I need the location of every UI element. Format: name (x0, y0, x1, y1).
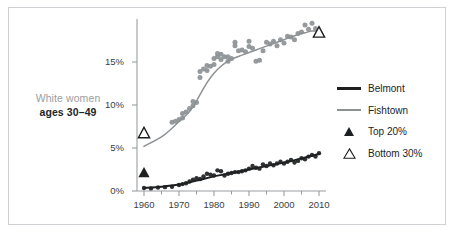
data-point (313, 154, 317, 158)
marker-triangle-filled (138, 167, 149, 177)
data-point (229, 56, 234, 61)
legend-key-line-icon (336, 87, 362, 90)
chart-figure: White women ages 30–49 0%5%10%15% 196019… (0, 0, 454, 233)
data-point (292, 37, 297, 42)
data-point (317, 151, 321, 155)
data-point (212, 62, 217, 67)
series-fishtown-scatter (170, 21, 319, 125)
x-tick-label: 1960 (127, 199, 161, 210)
data-point (194, 100, 199, 105)
data-point (247, 166, 251, 170)
data-point (198, 177, 202, 181)
y-tick-label: 5% (94, 142, 124, 153)
marker-triangle-hollow (138, 127, 149, 137)
axes (137, 19, 326, 191)
x-tick-label: 2000 (267, 199, 301, 210)
data-point (247, 39, 252, 44)
x-tick-label: 2010 (302, 199, 336, 210)
data-point (261, 48, 266, 53)
data-point (233, 40, 238, 45)
data-point (303, 157, 307, 161)
x-tick-label: 1980 (197, 199, 231, 210)
data-point (163, 185, 167, 189)
data-point (205, 68, 210, 73)
data-point (289, 158, 293, 162)
data-point (212, 173, 216, 177)
data-point (296, 159, 300, 163)
data-point (156, 185, 160, 189)
data-point (243, 49, 248, 54)
legend-label: Top 20% (368, 126, 407, 137)
data-point (142, 186, 146, 190)
series-bottom-30--marker-triangle-hollow (138, 27, 324, 138)
legend-label: Belmont (368, 83, 405, 94)
y-axis-ticks (132, 62, 137, 191)
y-tick-label: 0% (94, 185, 124, 196)
data-point (275, 43, 280, 48)
series-fishtown-trend-line (144, 31, 319, 146)
data-series-layer (138, 21, 324, 191)
data-point (250, 46, 255, 51)
data-point (170, 185, 174, 189)
series-belmont-scatter (142, 151, 321, 191)
data-point (180, 115, 185, 120)
legend-key-line-icon (336, 109, 362, 111)
data-point (306, 27, 311, 32)
data-point (303, 23, 308, 28)
data-point (271, 39, 276, 44)
x-tick-label: 1970 (162, 199, 196, 210)
legend-item-fishtown[interactable]: Fishtown (336, 100, 422, 122)
data-point (299, 29, 304, 34)
legend-key-triangle-filled-icon (336, 127, 362, 136)
legend-item-belmont[interactable]: Belmont (336, 78, 422, 100)
y-tick-label: 10% (94, 99, 124, 110)
data-point (282, 41, 287, 46)
legend-label: Bottom 30% (368, 148, 422, 159)
legend-key-triangle-hollow-icon (336, 148, 362, 159)
data-point (149, 186, 153, 190)
legend-item-top-20[interactable]: Top 20% (336, 121, 422, 143)
data-point (201, 174, 205, 178)
data-point (257, 166, 261, 170)
x-axis-ticks (144, 191, 319, 196)
data-point (219, 169, 223, 173)
trend-line (144, 31, 319, 146)
legend-item-bottom-30[interactable]: Bottom 30% (336, 143, 422, 165)
series-top-20--marker-triangle-filled (138, 167, 149, 177)
data-point (198, 75, 203, 80)
x-tick-label: 1990 (232, 199, 266, 210)
data-point (257, 58, 262, 63)
data-point (264, 164, 268, 168)
data-point (310, 21, 315, 26)
legend-label: Fishtown (368, 105, 408, 116)
y-tick-label: 15% (94, 56, 124, 67)
chart-legend: Belmont Fishtown Top 20% Bottom 30% (336, 78, 422, 164)
